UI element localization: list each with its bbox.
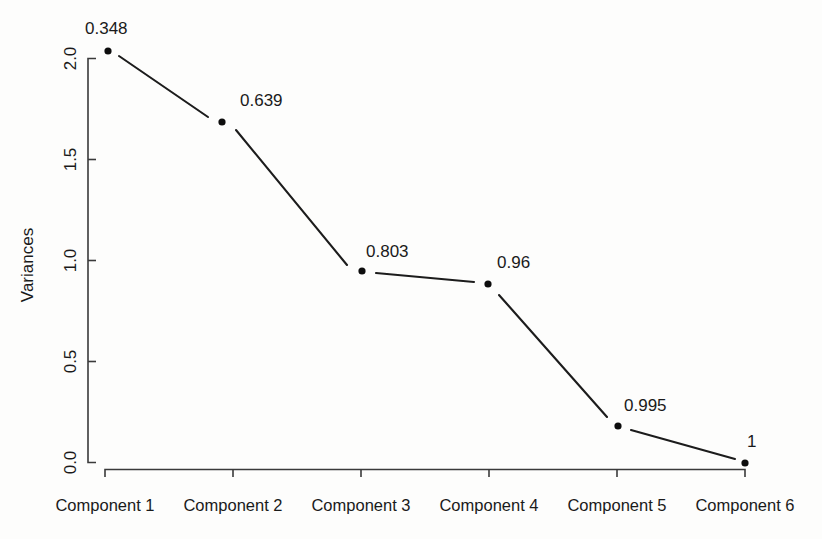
x-tick-label-3: Component 4 — [439, 496, 538, 514]
segment-4-5 — [499, 295, 607, 417]
x-tick-label-4: Component 5 — [567, 496, 666, 514]
segment-1-2 — [119, 56, 208, 117]
y-tick-label-4: 2.0 — [61, 47, 80, 71]
data-point-6 — [741, 459, 748, 466]
y-tick-label-2: 1.0 — [61, 249, 80, 273]
y-axis-title: Variances — [18, 228, 37, 302]
data-point-3 — [358, 267, 365, 274]
segment-5-6 — [631, 430, 735, 459]
data-point-4 — [484, 280, 491, 287]
data-label-4: 0.96 — [497, 253, 530, 272]
plot-canvas: 0.0 0.5 1.0 1.5 2.0 Variances Component … — [0, 0, 822, 539]
data-label-5: 0.995 — [624, 396, 667, 415]
data-point-2 — [218, 118, 225, 125]
y-tick-label-1: 0.5 — [61, 350, 80, 374]
data-label-2: 0.639 — [240, 91, 283, 110]
data-label-1: 0.348 — [85, 19, 128, 38]
segment-2-3 — [236, 130, 347, 265]
data-point-1 — [104, 47, 111, 54]
scree-plot-figure: 0.0 0.5 1.0 1.5 2.0 Variances Component … — [0, 0, 822, 539]
data-point-5 — [614, 422, 621, 429]
x-axis-line — [105, 470, 745, 478]
x-tick-label-2: Component 3 — [311, 496, 410, 514]
data-label-6: 1 — [747, 432, 756, 451]
segment-3-4 — [376, 273, 474, 282]
x-tick-label-1: Component 2 — [183, 496, 282, 514]
y-tick-label-3: 1.5 — [61, 148, 80, 172]
y-tick-label-0: 0.0 — [61, 451, 80, 475]
x-tick-label-5: Component 6 — [695, 496, 794, 514]
x-tick-label-0: Component 1 — [55, 496, 154, 514]
data-label-3: 0.803 — [366, 242, 409, 261]
